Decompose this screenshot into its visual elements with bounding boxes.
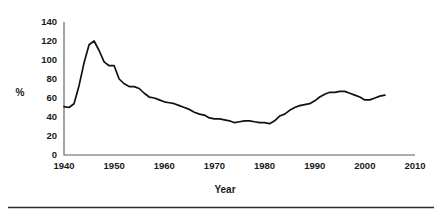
y-tick-label: 0 bbox=[52, 149, 57, 160]
x-tick-label: 1970 bbox=[204, 160, 225, 171]
x-tick-label: 1990 bbox=[304, 160, 325, 171]
x-tick-label: 1960 bbox=[154, 160, 175, 171]
x-tick-label: 1980 bbox=[254, 160, 275, 171]
x-tick-label: 2000 bbox=[354, 160, 375, 171]
y-tick-label: 140 bbox=[41, 16, 57, 27]
y-tick-label: 40 bbox=[46, 111, 57, 122]
y-tick-label: 100 bbox=[41, 54, 57, 65]
x-axis-title: Year bbox=[214, 184, 235, 195]
chart-figure: % 020406080100120140 1940195019601970198… bbox=[0, 0, 442, 215]
y-tick-label: 20 bbox=[46, 130, 57, 141]
x-tick-label: 1950 bbox=[104, 160, 125, 171]
y-tick-label: 80 bbox=[46, 73, 57, 84]
y-axis-title: % bbox=[16, 87, 25, 98]
x-tick-label: 1940 bbox=[53, 160, 74, 171]
x-tick-label: 2010 bbox=[404, 160, 425, 171]
line-chart: % 020406080100120140 1940195019601970198… bbox=[0, 0, 442, 215]
y-tick-label: 60 bbox=[46, 92, 57, 103]
y-tick-label: 120 bbox=[41, 35, 57, 46]
